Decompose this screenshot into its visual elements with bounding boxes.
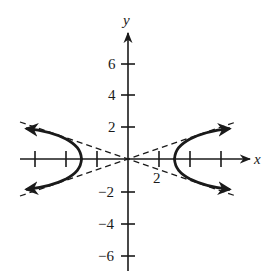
y-tick-label-neg2: −2 — [98, 184, 114, 200]
y-tick-label-6: 6 — [108, 56, 116, 72]
y-tick-label-neg6: −6 — [98, 248, 114, 264]
y-tick-label-4: 4 — [108, 87, 116, 103]
x-axis-label: x — [253, 151, 261, 167]
y-axis-label: y — [121, 12, 130, 28]
y-tick-label-2: 2 — [108, 119, 116, 135]
y-tick-label-neg4: −4 — [98, 216, 114, 232]
hyperbola-graph: y x 6 4 2 −2 −4 −6 2 — [0, 0, 264, 276]
x-tick-label-2: 2 — [153, 170, 161, 186]
